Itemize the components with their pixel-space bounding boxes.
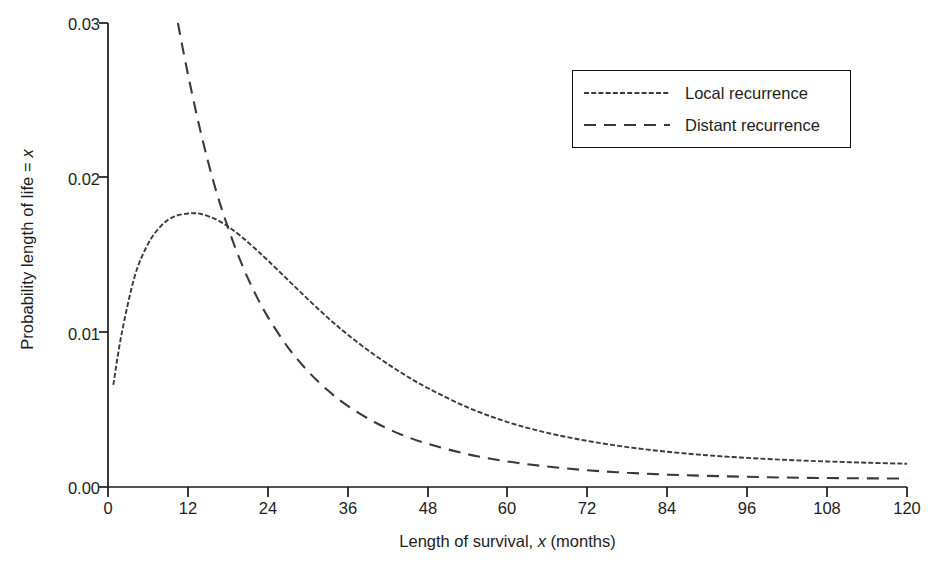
legend-label-distant-recurrence: Distant recurrence [685, 116, 820, 135]
series-line-local-recurrence [113, 213, 907, 464]
fine-dash-swatch-icon [583, 86, 671, 100]
legend-item-local-recurrence: Local recurrence [583, 79, 808, 107]
long-dash-swatch-icon [583, 118, 671, 132]
y-axis-ticks [99, 23, 108, 487]
legend-item-distant-recurrence: Distant recurrence [583, 111, 820, 139]
x-axis-label: Length of survival, x (months) [108, 532, 907, 551]
figure-root: Probability length of life = x 0.03 0.02… [0, 0, 938, 572]
chart-figure: Probability length of life = x 0.03 0.02… [0, 0, 938, 572]
chart-legend: Local recurrence Distant recurrence [572, 70, 851, 148]
x-axis-label-pre: Length of survival, [399, 532, 538, 550]
x-axis-ticks [108, 487, 907, 497]
x-axis-label-italic: x [538, 532, 546, 550]
x-axis-label-post: (months) [546, 532, 616, 550]
legend-label-local-recurrence: Local recurrence [685, 84, 808, 103]
